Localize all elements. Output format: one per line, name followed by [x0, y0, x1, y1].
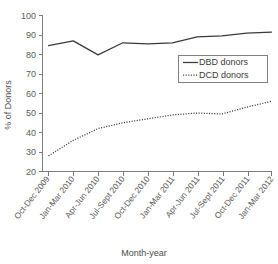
chart-page: % of Donors 100 90 80 70 60 50 40 30 20 — [0, 0, 278, 264]
series-line-dbd-donors — [49, 32, 272, 55]
y-tick-label: 90 — [26, 30, 36, 40]
y-tick-label: 40 — [26, 128, 36, 138]
y-tick-label: 30 — [26, 147, 36, 157]
x-axis-tick-labels: Oct-Dec 2009 Jan-Mar 2010 Apr-Jun 2010 J… — [12, 174, 276, 221]
series-line-dcd-donors — [49, 101, 272, 156]
y-tick-label: 60 — [26, 89, 36, 99]
y-tick-label: 50 — [26, 108, 36, 118]
y-axis-ticks: 100 90 80 70 60 50 40 30 20 — [21, 11, 43, 177]
legend-label-dbd: DBD donors — [199, 57, 249, 67]
legend-label-dcd: DCD donors — [199, 70, 249, 80]
line-chart: % of Donors 100 90 80 70 60 50 40 30 20 — [0, 0, 278, 264]
y-tick-label: 80 — [26, 50, 36, 60]
y-tick-label: 70 — [26, 69, 36, 79]
y-axis-title: % of Donors — [3, 80, 13, 130]
legend: DBD donors DCD donors — [179, 56, 268, 83]
x-axis-title: Month-year — [121, 248, 167, 258]
y-tick-label: 20 — [26, 167, 36, 177]
y-tick-label: 100 — [21, 11, 36, 21]
x-axis-ticks — [49, 172, 272, 177]
